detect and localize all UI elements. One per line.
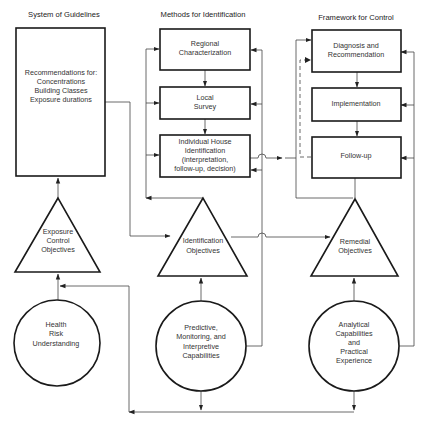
health-circle-line-2: Risk [49, 329, 63, 338]
regional-characterization-box: Regional Characterization [160, 29, 250, 70]
identification-triangle-line-1: Identification [183, 236, 223, 245]
exposure-triangle-line-2: Control [46, 236, 70, 245]
exposure-control-objectives-triangle: Exposure Control Objectives [15, 198, 100, 272]
remedial-line-2: Objectives [338, 246, 372, 255]
exposure-triangle-line-1: Exposure [43, 227, 73, 236]
predictive-line-1: Predictive, [184, 323, 218, 332]
local-line-2: Survey [194, 102, 217, 111]
predictive-line-3: Interpretive [183, 342, 219, 351]
diagram-canvas: System of Guidelines Methods for Identif… [0, 0, 427, 423]
predictive-line-4: Capabilities [182, 351, 220, 360]
implementation-box: Implementation [312, 88, 401, 121]
analytical-line-2: Capabilities [335, 329, 373, 338]
predictive-capabilities-circle: Predictive, Monitoring, and Interpretive… [156, 301, 246, 391]
diagnosis-line-1: Diagnosis and [333, 41, 379, 50]
arrow-left-bus-to-regional [146, 49, 159, 198]
health-risk-circle: Health Risk Understanding [14, 300, 100, 386]
guidelines-line-4: Exposure durations [30, 95, 92, 104]
health-circle-line-1: Health [46, 320, 67, 329]
remedial-line-1: Remedial [340, 237, 371, 246]
implementation-label: Implementation [331, 99, 380, 108]
analytical-line-1: Analytical [339, 320, 370, 329]
individual-line-1: Individual House [178, 137, 231, 146]
local-survey-box: Local Survey [160, 87, 250, 119]
dashed-arrowhead [305, 57, 311, 63]
arrow-individual-to-framework [250, 154, 282, 158]
column-title-identification: Methods for Identification [161, 10, 246, 19]
dashed-followup-feedback [300, 60, 311, 157]
diagnosis-line-2: Recommendation [328, 50, 384, 59]
individual-line-2: Identification [185, 146, 225, 155]
health-circle-line-3: Understanding [33, 339, 80, 348]
identification-triangle-line-2: Objectives [186, 246, 220, 255]
regional-line-2: Characterization [179, 48, 231, 57]
analytical-line-4: Practical [340, 347, 368, 356]
local-line-1: Local [196, 93, 214, 102]
guidelines-line-2: Concentrations [37, 77, 86, 86]
guidelines-line-3: Building Classes [34, 86, 88, 95]
guidelines-line-1: Recommendations for: [25, 68, 97, 77]
column-title-control: Framework for Control [318, 13, 394, 22]
column-title-guidelines: System of Guidelines [28, 10, 100, 19]
individual-line-3: (interpretation, [182, 155, 228, 164]
exposure-triangle-line-3: Objectives [41, 245, 75, 254]
analytical-capabilities-circle: Analytical Capabilities and Practical Ex… [309, 301, 399, 391]
follow-up-label: Follow-up [340, 151, 371, 160]
analytical-line-5: Experience [336, 356, 372, 365]
regional-line-1: Regional [191, 39, 220, 48]
diagnosis-recommendation-box: Diagnosis and Recommendation [312, 30, 401, 72]
predictive-line-2: Monitoring, and [176, 332, 226, 341]
analytical-line-3: and [348, 338, 360, 347]
individual-line-4: follow-up, decision) [174, 164, 236, 173]
arrow-identification-to-remedial [231, 233, 330, 237]
remedial-objectives-triangle: Remedial Objectives [311, 199, 398, 276]
follow-up-box: Follow-up [312, 137, 401, 178]
guidelines-box: Recommendations for: Concentrations Buil… [16, 28, 105, 176]
individual-house-identification-box: Individual House Identification (interpr… [160, 135, 250, 177]
